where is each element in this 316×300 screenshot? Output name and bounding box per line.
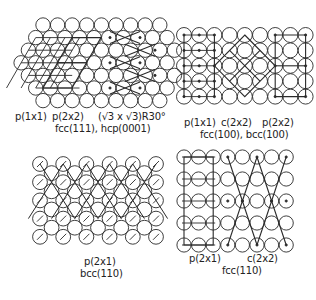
panel-fcc110-lattice (177, 150, 293, 252)
adsorbate-site (256, 156, 258, 158)
atom (167, 43, 181, 57)
label-fcc111-surface: fcc(111), hcp(0001) (55, 123, 150, 134)
atom (87, 81, 101, 95)
atom (253, 28, 268, 43)
atom (279, 216, 293, 230)
unit-cell-line (153, 234, 159, 240)
unit-cell-line (153, 197, 159, 203)
atom (65, 93, 79, 107)
atom (80, 18, 94, 32)
adsorbate-site (227, 200, 229, 202)
unit-cell-line (153, 179, 159, 185)
label-fcc110-surface: fcc(110) (222, 265, 262, 276)
atom (265, 216, 279, 230)
panel-fcc100-square-lattice (177, 28, 314, 105)
atom (222, 28, 237, 43)
atom (145, 56, 159, 70)
adsorbate-site (139, 87, 141, 89)
label-fcc110-c2x2: c(2x2) (247, 253, 278, 264)
atom (153, 18, 167, 32)
adsorbate-site (256, 244, 258, 246)
adsorbate-site (227, 244, 229, 246)
atom (94, 68, 108, 82)
adsorbate-site (109, 87, 111, 89)
unit-cell-line (60, 216, 66, 222)
atom (145, 81, 159, 95)
adsorbate-site (305, 34, 307, 36)
atom (283, 43, 298, 58)
atom (80, 93, 94, 107)
adsorbate-site (271, 200, 273, 202)
unit-cell-line (60, 179, 66, 185)
adsorbate-site (109, 62, 111, 64)
atom (265, 238, 279, 252)
atom (250, 194, 264, 208)
unit-cell-line (37, 216, 43, 222)
unit-cell-line (60, 197, 66, 203)
adsorbate-site (285, 244, 287, 246)
adsorbate-site (198, 34, 200, 36)
unit-cell-line (37, 197, 43, 203)
atom (235, 216, 249, 230)
panel-fcc111-hexagonal-lattice (7, 18, 182, 108)
atom (160, 30, 174, 44)
label-fcc100-p2x2: p(2x2) (262, 117, 294, 128)
atom (235, 172, 249, 186)
atom (116, 81, 130, 95)
adsorbate-site (109, 37, 111, 39)
atom (50, 93, 64, 107)
unit-cell-line (130, 161, 136, 167)
unit-cell-line (130, 197, 136, 203)
atom (222, 89, 237, 104)
unit-cell-line (153, 216, 159, 222)
label-fcc111-p1x1: p(1x1) (15, 111, 47, 122)
adsorbate-site (305, 65, 307, 67)
panel-bcc110-lattice (28, 157, 167, 245)
adsorbate-site (274, 65, 276, 67)
adsorbate-site (241, 200, 243, 202)
atom (222, 58, 237, 73)
label-fcc110-p2x1: p(2x1) (189, 253, 221, 264)
atom (109, 68, 123, 82)
adsorbate-site (285, 156, 287, 158)
label-fcc111-sqrt3-r30: (√3 x √3)R30° (98, 111, 166, 122)
atom (123, 43, 137, 57)
atom (123, 18, 137, 32)
atom (237, 43, 252, 58)
atom (250, 172, 264, 186)
adsorbate-site (198, 80, 200, 82)
atom (253, 58, 268, 73)
atom (265, 150, 279, 164)
atom (80, 43, 94, 57)
atom (160, 56, 174, 70)
adsorbate-site (274, 34, 276, 36)
label-fcc100-p1x1: p(1x1) (184, 117, 216, 128)
atom (123, 93, 137, 107)
atom (221, 216, 235, 230)
unit-cell-line (153, 161, 159, 167)
atom (116, 56, 130, 70)
unit-cell-line (83, 161, 89, 167)
adsorbate-site (139, 37, 141, 39)
atom (235, 150, 249, 164)
unit-cell-line (60, 234, 66, 240)
unit-cell-line (107, 234, 113, 240)
atom (279, 172, 293, 186)
label-bcc110-surface: bcc(110) (80, 268, 123, 279)
unit-cell-line (83, 179, 89, 185)
atom (94, 93, 108, 107)
adsorbate-site (154, 74, 156, 76)
atom (221, 172, 235, 186)
atom (138, 18, 152, 32)
adsorbate-site (198, 65, 200, 67)
atom (36, 18, 50, 32)
atom (116, 30, 130, 44)
unit-cell-line (107, 197, 113, 203)
unit-cell-line (83, 216, 89, 222)
atom (65, 18, 79, 32)
atom (235, 238, 249, 252)
atom (265, 172, 279, 186)
atom (145, 30, 159, 44)
unit-cell-line (130, 234, 136, 240)
label-fcc100-c2x2: c(2x2) (221, 117, 252, 128)
